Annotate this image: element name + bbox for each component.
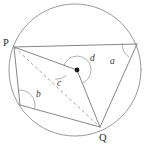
segment-r-q (100, 44, 137, 127)
centre-dot (75, 68, 80, 73)
angle-label-b: b (36, 89, 41, 99)
vertex-label-p: P (3, 37, 9, 48)
segment-p-o (14, 47, 77, 70)
vertex-label-q: Q (99, 132, 107, 143)
geometry-canvas: a b c d P Q (0, 0, 146, 144)
angle-label-c: c (57, 78, 62, 88)
angle-arc-a (122, 44, 129, 57)
segment-p-r (14, 44, 137, 47)
angle-label-a: a (110, 56, 115, 66)
geometry-figure: a b c d P Q (0, 0, 146, 144)
angle-label-d: d (90, 53, 95, 63)
angle-arc-b (19, 90, 36, 109)
